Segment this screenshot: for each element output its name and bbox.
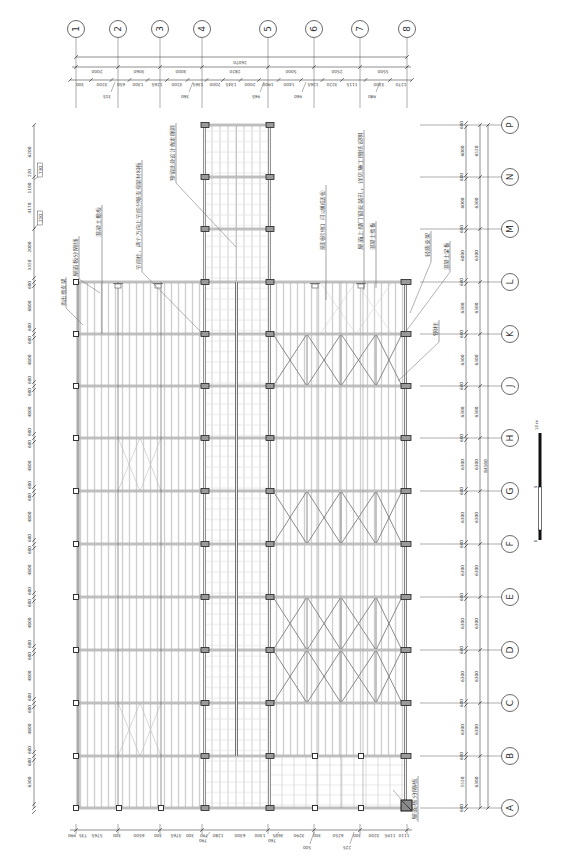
column-left (74, 754, 79, 759)
column-axis-5 (266, 648, 274, 653)
axis-label: L (505, 279, 515, 284)
skylight-grid-field (271, 757, 404, 807)
offset-dimension-text: 960 (294, 94, 302, 99)
row-mark-text: 600 (459, 646, 464, 654)
column-axis-4 (201, 648, 209, 653)
row-mark-text: 600 (459, 434, 464, 442)
left-dimension-text: 4800 (27, 617, 32, 628)
bay-dimension-text: 6300 (460, 406, 465, 417)
offset-dimension-text: 360 (181, 94, 189, 99)
detail-dimension-text: 3200 (96, 82, 107, 87)
column-axis-4 (201, 332, 209, 337)
left-dimension-chain: 6200220110041702000335060068006006004800… (27, 123, 43, 814)
detail-dimension-text: 1115 (346, 82, 357, 87)
column-axis-5 (266, 595, 274, 600)
column-right (401, 489, 411, 494)
left-dimension-text: 600 (27, 599, 32, 607)
left-dimension-text: 4800 (27, 406, 32, 417)
row-mark-text: 600 (459, 382, 464, 390)
dimension-tick (464, 808, 468, 812)
bottom-dimension-text: 3290 (293, 833, 304, 838)
column-left (74, 806, 79, 811)
bottom-dimension-text: 990 (68, 833, 76, 838)
offset-leader (189, 82, 193, 92)
column-axis-4 (201, 754, 209, 759)
row-mark-text: 600 (459, 540, 464, 548)
column-left (74, 332, 79, 337)
detail-dimension-text: 1345 (225, 82, 236, 87)
scale-bar-mid-label: 5 (533, 485, 538, 488)
column-right (401, 595, 411, 600)
bottom-dimension-text: 1110 (398, 833, 409, 838)
axis-label: N (505, 174, 515, 181)
annotation-text: 屋面板检修口（可以做成盖板） (319, 187, 326, 250)
bay-dimension-text: 6300 (460, 459, 465, 470)
column-small (359, 754, 364, 759)
left-dimension-text: 4800 (27, 723, 32, 734)
scale-bar: 10 m50 (533, 420, 542, 543)
column-axis-5 (266, 436, 274, 441)
column-right (401, 701, 411, 706)
bay-dimension-text: 6000 (460, 145, 465, 156)
column-right (401, 436, 411, 441)
bay-dimension-text: 5500 (377, 69, 388, 74)
offset-leader (111, 82, 115, 92)
column-small (313, 806, 318, 811)
left-dimension-text: 600 (27, 336, 32, 344)
left-dimension-text: 6800 (27, 300, 32, 311)
detail-dimension-text: 650 (117, 82, 125, 87)
annotation-leader (410, 262, 431, 313)
detail-dimension-text: 3200 (171, 82, 182, 87)
offset-dimension-text: 760 (268, 838, 276, 843)
bay-dimension-text: 6300 (474, 302, 479, 313)
offset-dimension-text: 965 (252, 94, 260, 99)
column-left (74, 489, 79, 494)
detail-dimension-text: 1270 (395, 82, 406, 87)
detail-dimension-text: 1265 (307, 82, 318, 87)
column-left (74, 384, 79, 389)
bay-dimension-text: 6300 (474, 459, 479, 470)
column-axis-4 (201, 806, 209, 811)
detail-dimension-text: 300 (76, 82, 84, 87)
axis-label: 1 (71, 26, 81, 32)
bay-dimension-text: 6300 (474, 197, 479, 208)
bay-dimension-text: 6300 (460, 302, 465, 313)
column-axis-5 (266, 384, 274, 389)
row-mark-text: 600 (459, 278, 464, 286)
column-right (401, 754, 411, 759)
bay-dimension-text: 5000 (285, 69, 296, 74)
row-mark-text: 600 (459, 173, 464, 181)
axis-label: 8 (402, 26, 412, 32)
bottom-dimension-text: 300 (154, 833, 162, 838)
offset-dimension-text: 980 (368, 94, 376, 99)
detail-dimension-text: 2000 (209, 82, 220, 87)
bay-dimension-text: 5520 (460, 776, 465, 787)
column-small (117, 806, 122, 811)
column-axis-4 (201, 701, 209, 706)
column-right (401, 542, 411, 547)
overall-dimension-text: 26070 (233, 60, 247, 65)
annotation-text: 屋面板分隔线 (72, 238, 79, 277)
column-left (74, 280, 79, 285)
left-dimension-text: 600 (27, 546, 32, 554)
left-dimension-text: 600 (27, 388, 32, 396)
bottom-dimension-text: 1280 (212, 833, 223, 838)
row-mark-text: 600 (459, 752, 464, 760)
left-dimension-text: 600 (27, 746, 32, 754)
left-dimension-text: 600 (27, 428, 32, 436)
bay-dimension-text: 6300 (460, 724, 465, 735)
annotation-text: 钢柱 (432, 322, 439, 336)
bottom-dimension-text: 300 (186, 833, 194, 838)
detail-dimension-text: 2000 (244, 82, 255, 87)
offset-dimension-text: 790 (199, 838, 207, 843)
annotation-text: 屋面上部门窗安装孔，详见施工图纸说明 (357, 132, 364, 250)
axis-label: M (505, 225, 515, 233)
axis-label: B (505, 753, 515, 759)
column-left (74, 648, 79, 653)
column-axis-5 (266, 280, 274, 285)
detail-dimension-text: 1365 (192, 82, 203, 87)
column-right (401, 648, 411, 653)
bay-dimension-text: 6300 (474, 512, 479, 523)
right-dimension-chain: 6006006006006006006006006006006006006006… (459, 121, 490, 812)
column-axis-5 (266, 332, 274, 337)
